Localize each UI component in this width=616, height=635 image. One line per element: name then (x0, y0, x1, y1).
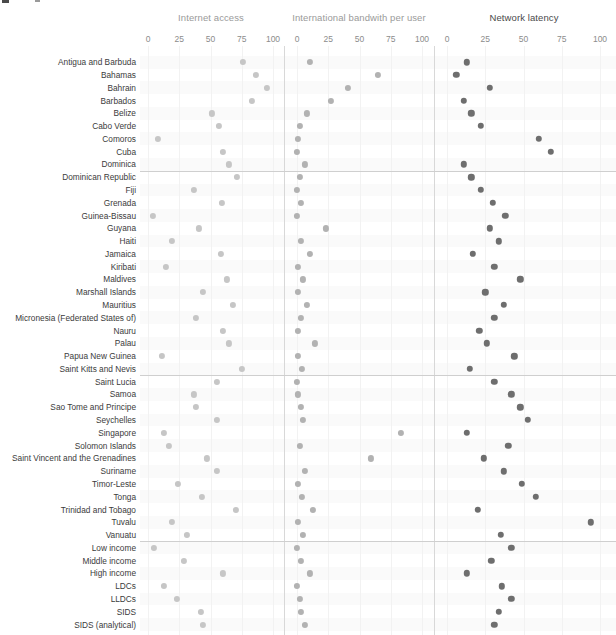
data-point (216, 123, 222, 129)
category-label: Low income (92, 544, 136, 552)
data-point (224, 276, 230, 282)
category-label: Tuvalu (111, 518, 136, 526)
data-point (184, 532, 190, 538)
data-point (296, 123, 302, 129)
category-label: Belize (113, 109, 136, 117)
category-label: Antigua and Barbuda (58, 58, 136, 66)
gridline (328, 46, 329, 635)
axis-tick-0-75: 75 (237, 34, 246, 44)
category-label: Jamaica (105, 250, 136, 258)
category-label: Vanuatu (106, 531, 136, 539)
category-label: LDCs (115, 582, 136, 590)
data-point (490, 200, 496, 206)
data-point (204, 455, 210, 461)
axis-tick-1-25: 25 (324, 34, 333, 44)
data-point (294, 149, 300, 155)
group-separator (140, 541, 616, 542)
category-label: Bahrain (107, 84, 136, 92)
data-point (249, 97, 255, 103)
category-label: Marshall Islands (76, 288, 136, 296)
data-point (310, 506, 316, 512)
category-label: Kiribati (111, 263, 136, 271)
clipped-artifact (35, 0, 40, 2)
dot-plot-chart: Internet access International bandwith p… (0, 0, 616, 635)
category-label: Saint Vincent and the Grenadines (12, 454, 136, 462)
gridline (600, 46, 601, 635)
gridline (148, 46, 149, 635)
data-point (487, 225, 493, 231)
clipped-artifact (2, 0, 9, 3)
data-point (368, 455, 374, 461)
axis-tick-1-0: 0 (295, 34, 300, 44)
data-point (306, 251, 312, 257)
panel-title-international-bandwidth: International bandwith per user (289, 12, 429, 23)
category-label: Grenada (104, 199, 136, 207)
axis-tick-0-100: 100 (266, 34, 280, 44)
category-label: Haiti (119, 237, 136, 245)
category-label: Dominican Republic (62, 173, 136, 181)
data-point (159, 353, 165, 359)
data-point (232, 506, 238, 512)
axis-tick-2-25: 25 (481, 34, 490, 44)
category-label: Tonga (113, 493, 136, 501)
axis-tick-0-25: 25 (175, 34, 184, 44)
data-point (234, 174, 240, 180)
data-point (304, 302, 310, 308)
data-point (474, 506, 480, 512)
data-point (161, 583, 167, 589)
category-label: SIDS (analytical) (74, 620, 136, 628)
gridline (391, 46, 392, 635)
data-point (294, 379, 300, 385)
category-label: Saint Lucia (95, 378, 136, 386)
axis-tick-1-50: 50 (355, 34, 364, 44)
axis-tick-2-100: 100 (593, 34, 607, 44)
data-point (488, 557, 494, 563)
panel-separator-1 (284, 46, 285, 635)
axis-tick-0-50: 50 (206, 34, 215, 44)
panel-separator-2 (434, 46, 435, 635)
category-label: Micronesia (Federated States of) (15, 314, 136, 322)
data-point (511, 353, 517, 359)
data-point (220, 327, 226, 333)
data-point (181, 558, 187, 564)
category-label: Saint Kitts and Nevis (59, 365, 136, 373)
category-label: SIDS (117, 608, 136, 616)
category-label: Samoa (110, 390, 136, 398)
data-point (497, 532, 503, 538)
gridline (360, 46, 361, 635)
gridline (524, 46, 525, 635)
axis-tick-2-50: 50 (519, 34, 528, 44)
data-point (295, 327, 301, 333)
gridline (273, 46, 274, 635)
gridline (447, 46, 448, 635)
axis-tick-1-100: 100 (415, 34, 429, 44)
data-point (548, 148, 554, 154)
data-point (294, 583, 300, 589)
data-point (300, 532, 306, 538)
data-point (196, 225, 202, 231)
axis-tick-2-75: 75 (557, 34, 566, 44)
category-label: Middle income (83, 556, 137, 564)
category-label: Sao Tome and Principe (50, 403, 136, 411)
data-point (220, 149, 226, 155)
data-point (464, 430, 470, 436)
category-label: LLDCs (111, 595, 136, 603)
category-label: Comoros (102, 135, 136, 143)
data-point (192, 404, 198, 410)
data-point (219, 200, 225, 206)
category-label: Seychelles (96, 416, 136, 424)
gridline (562, 46, 563, 635)
category-label: Guinea-Bissau (82, 211, 136, 219)
category-label: Cabo Verde (92, 122, 136, 130)
data-point (517, 276, 523, 282)
data-point (197, 609, 203, 615)
data-point (496, 609, 502, 615)
data-point (175, 481, 181, 487)
axis-tick-0-0: 0 (146, 34, 151, 44)
panel-title-internet-access: Internet access (148, 12, 274, 23)
category-label: Papua New Guinea (64, 352, 136, 360)
data-point (295, 353, 301, 359)
data-point (298, 200, 304, 206)
group-separator (140, 375, 616, 376)
data-point (161, 430, 167, 436)
